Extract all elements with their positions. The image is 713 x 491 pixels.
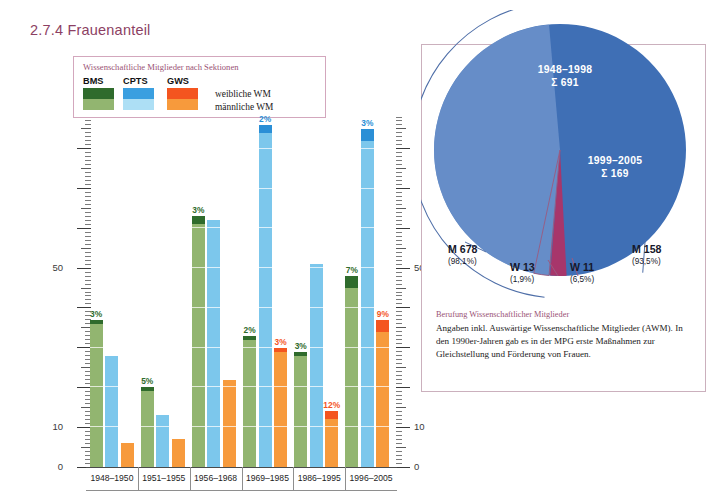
axis-tick (396, 156, 402, 157)
bar-gridline (310, 426, 323, 427)
bar-cpts-19561968 (207, 220, 220, 467)
bar-segment-female (90, 320, 103, 324)
bar-bms-19861995 (294, 352, 307, 467)
bar-gridline (207, 426, 220, 427)
legend-section-cpts: CPTS (123, 76, 148, 86)
axis-tick (396, 240, 402, 241)
bar-cpts-19481950 (105, 356, 118, 467)
axis-tick (396, 455, 402, 456)
bar-gridline (274, 386, 287, 387)
legend-title: Wissenschaftliche Mitglieder nach Sektio… (83, 62, 239, 72)
x-axis-label-19962005: 1996–2005 (345, 473, 397, 483)
axis-tick (396, 447, 406, 448)
bar-gridline (192, 386, 205, 387)
bar-gridline (345, 307, 358, 308)
bar-gridline (325, 426, 338, 427)
callout-female-1-value: W 13 (510, 261, 535, 273)
callout-male-1: M 678 (98,1%) (448, 243, 477, 266)
axis-tick (396, 451, 402, 452)
x-axis-separator (242, 467, 243, 491)
bar-pct-label: 3% (185, 205, 212, 215)
bar-pct-label: 5% (134, 376, 161, 386)
legend-swatch-bms (83, 88, 114, 110)
axis-tick (396, 200, 402, 201)
bar-pct-label: 2% (252, 114, 279, 124)
bar-gridline (207, 386, 220, 387)
bar-gridline (90, 426, 103, 427)
legend-swatch-male (83, 99, 114, 110)
bar-gridline (310, 267, 323, 268)
x-axis-label-19691985: 1969–1985 (242, 473, 294, 483)
bar-gws-19962005 (376, 320, 389, 467)
axis-tick (396, 391, 402, 392)
y-axis-right: 50100 (396, 117, 422, 467)
axis-tick (396, 431, 402, 432)
axis-tick (396, 419, 402, 420)
pie-note-heading: Berufung Wissenschaftlicher Mitglieder (436, 310, 694, 319)
axis-tick (396, 284, 402, 285)
pie-slice-2-sum: Σ 169 (540, 168, 690, 179)
legend-swatch-male (123, 99, 154, 110)
bar-gridline (259, 347, 272, 348)
bar-gridline (345, 386, 358, 387)
pie-slice-1-sum: Σ 691 (470, 77, 660, 88)
axis-tick (396, 371, 402, 372)
bar-gridline (207, 347, 220, 348)
bar-gridline (105, 386, 118, 387)
bar-gridline (259, 227, 272, 228)
bar-bms-19691985 (243, 336, 256, 467)
legend-swatch-female (83, 88, 114, 99)
bar-gws-19691985 (274, 348, 287, 467)
bar-gridline (345, 426, 358, 427)
axis-tick (396, 359, 402, 360)
bar-bms-19561968 (192, 216, 205, 467)
axis-tick (396, 220, 402, 221)
axis-tick (396, 379, 402, 380)
bar-chart-panel: 50100 50100 Wissenschaftliche Mitglieder… (26, 55, 418, 435)
bar-segment-female (345, 276, 358, 288)
bar-gridline (259, 426, 272, 427)
axis-label-left-0: 0 (58, 461, 63, 472)
axis-tick (396, 439, 402, 440)
callout-female-1: W 13 (1,9%) (510, 261, 535, 284)
legend-label-male: männliche WM (215, 102, 273, 112)
bar-gridline (141, 426, 154, 427)
bar-cpts-19511955 (156, 415, 169, 467)
axis-tick (396, 124, 402, 125)
axis-tick (396, 236, 402, 237)
bar-gridline (376, 386, 389, 387)
bar-gridline (294, 386, 307, 387)
bar-segment-female (141, 387, 154, 391)
callout-male-2-value: M 158 (632, 243, 661, 255)
x-axis-label-19861995: 1986–1995 (293, 473, 345, 483)
axis-tick (396, 351, 402, 352)
axis-tick (396, 307, 410, 308)
bar-gridline (90, 386, 103, 387)
bar-gridline (259, 307, 272, 308)
axis-tick (396, 148, 410, 149)
bar-cpts-19691985 (259, 125, 272, 467)
axis-tick (396, 180, 402, 181)
bar-gridline (259, 267, 272, 268)
axis-tick (396, 136, 402, 137)
x-axis-separator (138, 467, 139, 491)
axis-tick (396, 256, 402, 257)
pie-note: Berufung Wissenschaftlicher Mitglieder A… (436, 310, 694, 361)
bar-gridline (192, 347, 205, 348)
bar-gridline (361, 347, 374, 348)
axis-tick (396, 164, 402, 165)
axis-tick (396, 347, 410, 348)
bar-gridline (192, 426, 205, 427)
axis-label-left-10: 10 (52, 421, 63, 432)
bar-pct-label: 9% (369, 309, 396, 319)
bar-gridline (361, 267, 374, 268)
callout-male-1-value: M 678 (448, 243, 477, 255)
bar-gridline (243, 347, 256, 348)
axis-tick (396, 387, 410, 388)
x-axis-separator (345, 467, 346, 491)
axis-tick (396, 120, 402, 121)
pie-slice-caption-2: 1999–2005 Σ 169 (540, 155, 690, 179)
axis-tick (396, 204, 402, 205)
chart-legend: Wissenschaftliche Mitglieder nach Sektio… (73, 56, 326, 118)
bar-segment-female (243, 336, 256, 340)
